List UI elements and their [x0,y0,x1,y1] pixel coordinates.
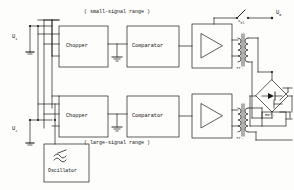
schematic-svg [0,0,294,190]
oscillator-box [44,144,89,182]
transformer-top-secondary [245,38,248,62]
amplifier-top-box [192,24,232,68]
amplifier-top-triangle [201,34,222,58]
input-label-u1: U1 [12,34,17,41]
output-terminal-dot [271,17,273,19]
relay-coil-label: Rel. [265,113,275,117]
transformer-top-label: Tr. [236,66,244,70]
input-label-u2: U2 [12,126,17,133]
amplifier-bottom-box [192,94,232,138]
small-signal-range-label: ( small-signal range ) [84,9,150,15]
output-label: UB [276,10,281,17]
switch-blade [237,10,245,18]
amplifier-bottom-triangle [201,104,222,128]
chopper-top-label: Chopper [66,43,88,49]
transformer-bottom-label: Tr. [236,136,244,140]
transformer-top-primary [238,38,241,62]
transformer-bottom-primary [238,108,241,132]
sine-wave-icon [54,150,66,162]
oscillator-label: Oscillator [48,168,77,173]
diode-bridge [256,80,288,112]
circuit-diagram-canvas: U1 U2 ( small-signal range ) ( large-sig… [0,0,294,190]
switch-label: Sel [238,19,245,25]
output-contact-group [274,88,292,118]
transformer-bottom-secondary [245,108,248,132]
comparator-bottom-label: Comparator [132,113,163,119]
chopper-bottom-label: Chopper [66,113,88,119]
large-signal-range-label: ( large-signal range ) [84,140,150,146]
comparator-top-label: Comparator [132,43,163,49]
